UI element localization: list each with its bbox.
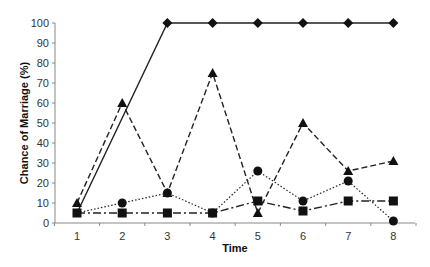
square-marker [344, 197, 353, 206]
circle-marker [163, 189, 172, 198]
y-tick-label: 100 [31, 17, 49, 29]
triangle-marker [72, 198, 82, 207]
x-tick-label: 6 [300, 230, 306, 242]
diamond-marker [298, 18, 308, 28]
diamond-marker [162, 18, 172, 28]
x-tick-label: 3 [164, 230, 170, 242]
y-tick-label: 40 [37, 137, 49, 149]
line-chart: 010203040506070809010012345678 Chance of… [0, 0, 430, 267]
y-tick-label: 0 [43, 217, 49, 229]
square-marker [208, 209, 217, 218]
square-marker [299, 207, 308, 216]
square-marker [389, 197, 398, 206]
circle-marker [253, 167, 262, 176]
diamond-marker [388, 18, 398, 28]
y-tick-label: 90 [37, 37, 49, 49]
series-group [72, 18, 398, 226]
y-tick-label: 60 [37, 97, 49, 109]
triangle-marker [343, 166, 353, 175]
diamond-marker [253, 18, 263, 28]
square-marker [253, 197, 262, 206]
x-tick-label: 8 [390, 230, 396, 242]
square-marker [118, 209, 127, 218]
x-tick-label: 7 [345, 230, 351, 242]
triangle-marker [208, 68, 218, 77]
diamond-marker [208, 18, 218, 28]
circle-marker [389, 217, 398, 226]
y-tick-label: 30 [37, 157, 49, 169]
x-tick-label: 4 [210, 230, 216, 242]
x-tick-label: 2 [119, 230, 125, 242]
circle-marker [299, 197, 308, 206]
y-axis-title: Chance of Marriage (%) [18, 62, 30, 185]
y-tick-label: 10 [37, 197, 49, 209]
triangle-marker [298, 118, 308, 127]
diamond-marker [343, 18, 353, 28]
y-tick-label: 70 [37, 77, 49, 89]
triangle-marker [117, 98, 127, 107]
circle-marker [344, 177, 353, 186]
triangle-marker [253, 208, 263, 217]
y-tick-label: 20 [37, 177, 49, 189]
square-marker [73, 209, 82, 218]
axes: 010203040506070809010012345678 [31, 17, 416, 242]
y-tick-label: 50 [37, 117, 49, 129]
x-tick-label: 1 [74, 230, 80, 242]
triangle-marker [388, 156, 398, 165]
x-axis-title: Time [222, 242, 247, 254]
series-triangle-dashed [72, 68, 398, 217]
square-marker [163, 209, 172, 218]
x-tick-label: 5 [255, 230, 261, 242]
y-tick-label: 80 [37, 57, 49, 69]
circle-marker [118, 199, 127, 208]
